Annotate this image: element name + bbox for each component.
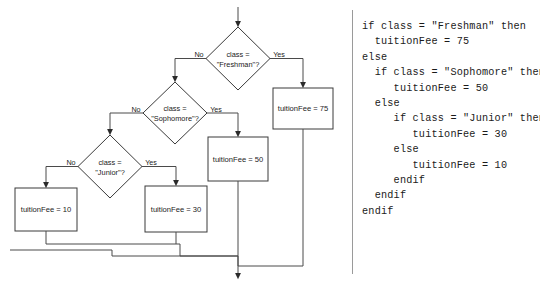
decision-sophomore	[143, 82, 207, 144]
decision-sophomore-line2: "Sophomore"?	[151, 114, 199, 123]
pseudocode-text: if class = "Freshman" then tuitionFee = …	[362, 19, 538, 219]
decision-freshman-yes-label: Yes	[273, 50, 285, 59]
decision-freshman	[206, 27, 270, 90]
process-fee10-label: tuitionFee = 10	[21, 205, 71, 214]
process-fee75-label: tuitionFee = 75	[278, 104, 328, 113]
connector-sophomore-yes-to-fee50	[207, 113, 238, 134]
connector-junior-yes-to-fee30	[142, 167, 176, 184]
decision-freshman-line2: "Freshman"?	[217, 60, 260, 69]
process-fee30-label: tuitionFee = 30	[151, 205, 201, 214]
decision-junior-no-label: No	[66, 158, 75, 167]
connector-sophomore-no-to-junior	[110, 113, 143, 132]
connector-junior-no-to-fee10	[46, 167, 78, 186]
decision-sophomore-yes-label: Yes	[210, 105, 222, 114]
pseudocode-panel: if class = "Freshman" then tuitionFee = …	[362, 19, 538, 269]
connector-merge-lower-left	[180, 244, 238, 256]
connector-freshman-no-to-sophomore	[175, 59, 206, 80]
decision-sophomore-no-label: No	[131, 105, 140, 114]
process-fee50-label: tuitionFee = 50	[213, 155, 263, 164]
connector-fee10-merge	[46, 231, 180, 244]
decision-junior	[78, 135, 142, 198]
connector-merge-left-rail	[10, 250, 112, 256]
decision-freshman-line1: class =	[226, 50, 249, 59]
decision-junior-yes-label: Yes	[145, 158, 157, 167]
panel-divider	[352, 10, 353, 274]
decision-freshman-no-label: No	[194, 50, 203, 59]
flowchart-canvas: class = "Freshman"? No Yes tuitionFee = …	[0, 0, 345, 284]
decision-sophomore-line1: class =	[163, 104, 186, 113]
decision-junior-line2: "Junior"?	[95, 168, 125, 177]
connector-freshman-yes-to-fee75	[270, 59, 303, 86]
flowchart-pseudocode-figure: class = "Freshman"? No Yes tuitionFee = …	[0, 0, 540, 284]
decision-junior-line1: class =	[98, 158, 121, 167]
